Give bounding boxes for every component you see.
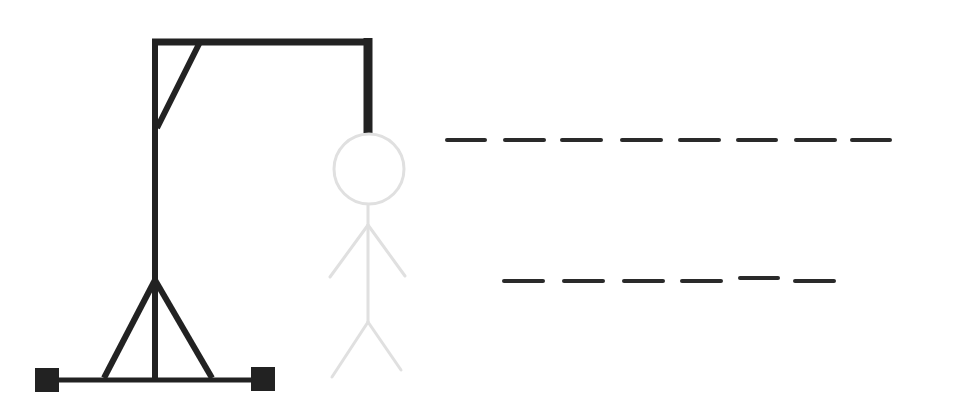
word-row-2	[502, 279, 836, 283]
figure-head	[334, 134, 404, 204]
figure-right-arm	[368, 225, 405, 276]
letter-blank	[503, 138, 546, 142]
gallows-drawing	[0, 0, 965, 401]
letter-blank	[736, 138, 778, 142]
gallows-strut-right	[155, 280, 212, 378]
hangman-game	[0, 0, 965, 401]
letter-blank	[678, 138, 721, 142]
gallows-foot-right	[251, 367, 275, 391]
word-row-1	[445, 138, 892, 142]
letter-blank	[794, 138, 837, 142]
letter-blank	[560, 138, 603, 142]
letter-blank	[680, 279, 723, 283]
letter-blank	[562, 279, 605, 283]
hangman-figure	[330, 134, 405, 377]
letter-blank	[502, 279, 545, 283]
figure-right-leg	[368, 322, 401, 370]
gallows	[35, 38, 372, 392]
letter-blank	[620, 138, 663, 142]
figure-left-arm	[330, 225, 368, 277]
letter-blank	[445, 138, 487, 142]
letter-blank	[738, 276, 780, 280]
letter-blank	[793, 279, 836, 283]
gallows-strut-left	[104, 280, 155, 378]
figure-left-leg	[332, 322, 368, 377]
letter-blank	[622, 279, 665, 283]
gallows-foot-left	[35, 368, 59, 392]
gallows-brace	[157, 42, 200, 128]
letter-blank	[850, 138, 892, 142]
